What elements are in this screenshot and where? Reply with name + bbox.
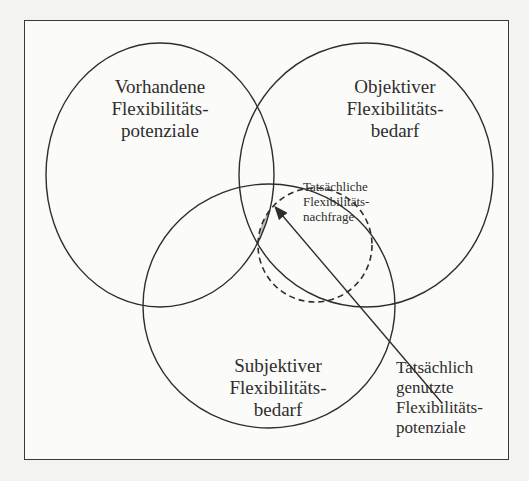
label-genutzte: Tatsächlich genutzte Flexibilitäts- pote… — [396, 358, 506, 438]
label-vorhandene: Vorhandene Flexibilitäts- potenziale — [80, 76, 240, 142]
label-objektiver: Objektiver Flexibilitäts- bedarf — [325, 76, 465, 142]
label-nachfrage: Tatsächliche Flexibilitäts- nachfrage — [303, 179, 383, 224]
label-subjektiver: Subjektiver Flexibilitäts- bedarf — [208, 355, 348, 421]
